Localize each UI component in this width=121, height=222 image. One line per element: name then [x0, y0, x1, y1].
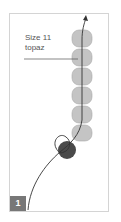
label-color: topaz	[25, 43, 51, 53]
bead-label: Size 11 topaz	[25, 33, 51, 53]
beading-diagram	[0, 0, 121, 222]
label-size: Size 11	[25, 33, 51, 43]
step-number-badge: 1	[10, 196, 26, 211]
arrow-head-icon	[83, 15, 88, 21]
